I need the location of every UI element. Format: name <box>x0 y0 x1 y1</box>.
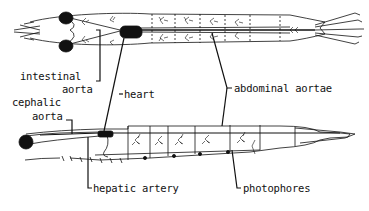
label-abdominal-aortae: abdominal aortae <box>234 82 332 94</box>
label-intestinal-aorta-2: aorta <box>62 83 93 95</box>
label-heart: heart <box>124 88 155 100</box>
dorsal-eye-upper <box>59 12 73 24</box>
label-photophores: photophores <box>243 182 310 194</box>
lateral-eye <box>19 135 33 149</box>
dorsal-heart <box>120 26 142 38</box>
dorsal-eye-lower <box>59 40 73 52</box>
label-cephalic-aorta-1: cephalic <box>12 96 61 108</box>
shrimp-circulatory-diagram: intestinal aorta heart abdominal aortae … <box>0 0 369 211</box>
lateral-view <box>25 125 355 163</box>
label-cephalic-aorta-2: aorta <box>32 110 63 122</box>
label-intestinal-aorta-1: intestinal <box>20 70 81 82</box>
label-hepatic-artery: hepatic artery <box>93 182 179 194</box>
lateral-heart <box>98 131 113 137</box>
